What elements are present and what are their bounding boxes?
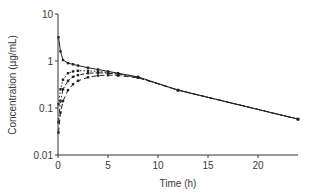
y-axis-title: Concentration (µg/mL) <box>7 35 18 135</box>
data-point-marker <box>77 80 79 82</box>
x-tick-label: 0 <box>55 160 61 171</box>
data-point-marker <box>77 74 79 76</box>
y-tick-label: 0.01 <box>34 150 54 161</box>
data-point-marker <box>87 76 89 78</box>
x-tick-label: 20 <box>252 160 264 171</box>
data-point-marker <box>62 79 64 81</box>
x-tick-label: 15 <box>202 160 214 171</box>
data-point-marker <box>59 111 61 113</box>
data-point-marker <box>67 62 69 64</box>
data-point-marker <box>297 118 299 120</box>
pk-concentration-chart: 0.010.1110 05101520 Time (h) Concentrati… <box>0 0 309 196</box>
x-tick-label: 10 <box>152 160 164 171</box>
data-point-marker <box>67 80 69 82</box>
data-point-marker <box>72 70 74 72</box>
x-tick-label: 5 <box>105 160 111 171</box>
data-point-marker <box>77 70 79 72</box>
data-point-marker <box>117 74 119 76</box>
data-point-marker <box>59 88 61 90</box>
data-point-marker <box>72 83 74 85</box>
data-point-marker <box>97 74 99 76</box>
data-point-marker <box>87 72 89 74</box>
x-ticks: 05101520 <box>55 155 264 171</box>
data-point-marker <box>67 89 69 91</box>
series-line-dotted <box>59 71 299 119</box>
data-point-marker <box>97 72 99 74</box>
data-point-marker <box>59 100 61 102</box>
data-point-marker <box>72 76 74 78</box>
data-point-marker <box>67 72 69 74</box>
x-axis-title: Time (h) <box>160 178 197 189</box>
y-tick-label: 10 <box>42 9 54 20</box>
data-point-marker <box>87 70 89 72</box>
data-point-marker <box>87 67 89 69</box>
data-point-marker <box>59 50 61 52</box>
data-point-marker <box>62 88 64 90</box>
plot-series <box>57 36 299 134</box>
series-line-dashed <box>59 75 299 133</box>
data-point-marker <box>72 63 74 65</box>
series-line-solid <box>59 37 299 119</box>
data-point-marker <box>62 59 64 61</box>
y-ticks: 0.010.1110 <box>34 9 58 161</box>
data-point-marker <box>107 74 109 76</box>
y-tick-label: 0.1 <box>39 103 53 114</box>
axes <box>58 14 298 155</box>
data-point-marker <box>62 100 64 102</box>
data-point-marker <box>77 64 79 66</box>
series-line-dashdot <box>59 73 299 122</box>
y-tick-label: 1 <box>47 56 53 67</box>
data-point-marker <box>177 89 179 91</box>
data-point-marker <box>137 77 139 79</box>
